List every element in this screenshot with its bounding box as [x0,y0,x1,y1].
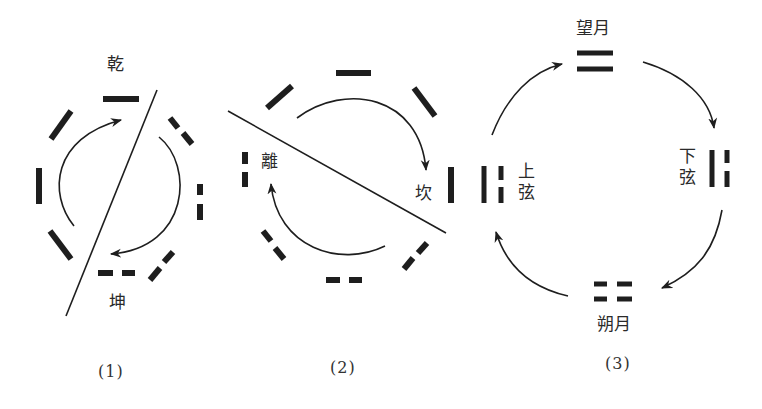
label-new-moon: 朔月 [597,316,631,333]
segment-upper-left-solid [51,111,71,139]
segment-lower-right-broken-a [418,243,427,253]
diagram-canvas: 乾 坤 (1) 離 坎 (2) 望月 下弦 朔月 上弦 (3) [0,0,762,409]
arrow-bottom-to-left [496,232,568,296]
label-kun: 坤 [109,294,126,311]
arrow-left-to-top [492,64,562,135]
arrow-top-arc [297,99,426,170]
segment-upper-right-solid [414,88,435,116]
arrow-right-to-bottom [662,210,722,288]
arrow-left-arc [59,120,121,226]
label-qian: 乾 [107,56,124,73]
panel-1 [39,90,200,316]
arrow-bottom-arc [271,184,385,255]
label-kan: 坎 [415,185,432,202]
divider-line [66,90,157,316]
trigram-segments [245,73,451,280]
caption-panel-1: (1) [98,362,124,381]
label-full-moon: 望月 [576,20,610,37]
caption-panel-2: (2) [330,358,356,377]
segment-lower-right-broken-b [404,258,413,269]
segment-lower-right-broken-b [150,268,160,280]
segment-lower-left-solid [50,231,71,259]
panel-2 [228,73,451,280]
segment-lower-right-broken-a [164,252,173,262]
arrow-right-arc [111,137,180,254]
caption-panel-3: (3) [605,354,631,373]
arrow-top-to-right [643,62,714,128]
segment-upper-right-broken-a [170,118,178,128]
segment-upper-left-solid [267,86,292,108]
label-first-quarter: 上弦 [518,161,536,203]
segment-lower-left-broken-a [263,231,271,241]
segment-lower-left-broken-b [275,248,284,259]
segment-upper-right-broken-b [183,133,192,144]
label-last-quarter: 下弦 [679,146,697,188]
label-li: 離 [261,153,278,170]
